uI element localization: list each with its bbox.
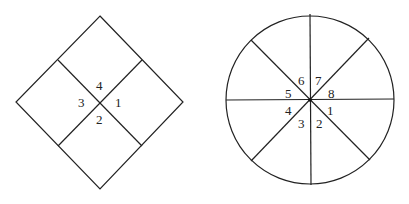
diamond-label-4: 4 [96,78,103,93]
diamond-diagram: 1 2 3 4 [16,16,183,189]
circle-diagram: 1 2 3 4 5 6 7 8 [226,14,394,185]
diamond-label-2: 2 [96,112,103,127]
diamond-label-1: 1 [115,95,122,110]
center-point [308,98,312,102]
circle-label-2: 2 [316,116,323,131]
circle-label-5: 5 [285,86,292,101]
circle-label-7: 7 [315,73,322,88]
circle-label-4: 4 [285,103,292,118]
circle-label-6: 6 [298,73,305,88]
circle-label-8: 8 [328,86,335,101]
diamond-label-3: 3 [78,95,85,110]
circle-label-1: 1 [327,103,334,118]
diagram-canvas: 1 2 3 4 1 2 3 4 5 6 7 8 [0,0,409,204]
circle-label-3: 3 [298,116,305,131]
